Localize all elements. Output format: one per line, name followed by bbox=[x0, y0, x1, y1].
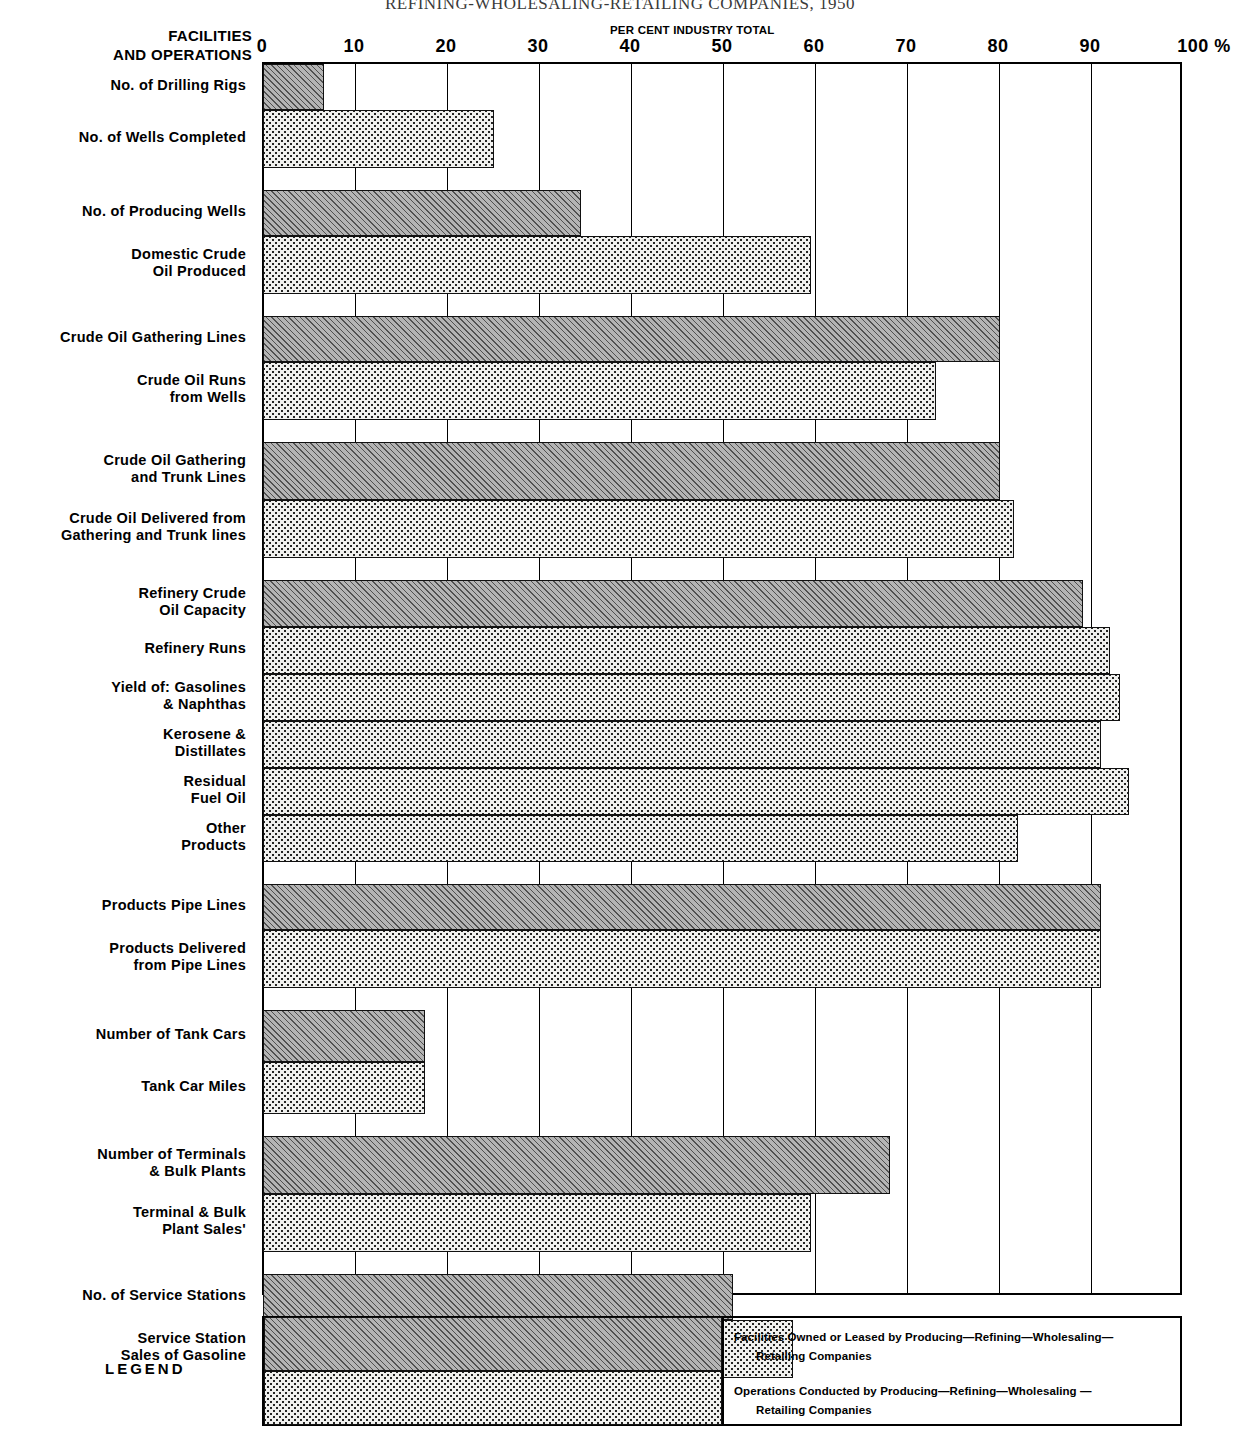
row-label-line: Oil Produced bbox=[0, 263, 246, 280]
row-label-crude-oil-gathering-lines: Crude Oil Gathering Lines bbox=[0, 329, 252, 346]
plot-area bbox=[262, 62, 1182, 1295]
row-label-number-of-tank-cars: Number of Tank Cars bbox=[0, 1026, 252, 1043]
row-label-products-delivered-from-pipe-lines: Products Deliveredfrom Pipe Lines bbox=[0, 940, 252, 974]
row-label-line: Products Pipe Lines bbox=[0, 897, 246, 914]
row-label-line: Refinery Crude bbox=[0, 585, 246, 602]
row-label-line: Other bbox=[0, 820, 246, 837]
row-label-crude-oil-runs-from-wells: Crude Oil Runsfrom Wells bbox=[0, 372, 252, 406]
row-label-line: Domestic Crude bbox=[0, 246, 246, 263]
row-label-terminal-bulk-plant-sales: Terminal & BulkPlant Sales' bbox=[0, 1204, 252, 1238]
legend-title: LEGEND bbox=[105, 1360, 255, 1377]
row-label-no-of-wells-completed: No. of Wells Completed bbox=[0, 129, 252, 146]
legend-box: Facilities Owned or Leased by Producing—… bbox=[262, 1316, 1182, 1426]
bar-no-of-producing-wells bbox=[263, 190, 581, 236]
row-label-line: Crude Oil Delivered from bbox=[0, 510, 246, 527]
row-label-line: Residual bbox=[0, 773, 246, 790]
row-label-residual-fuel-oil: ResidualFuel Oil bbox=[0, 773, 252, 807]
row-label-line: Crude Oil Runs bbox=[0, 372, 246, 389]
bar-kerosene-distillates bbox=[263, 721, 1101, 768]
bar-residual-fuel-oil bbox=[263, 768, 1129, 815]
row-label-line: from Pipe Lines bbox=[0, 957, 246, 974]
axis-caption: PER CENT INDUSTRY TOTAL bbox=[610, 24, 775, 36]
row-label-line: & Bulk Plants bbox=[0, 1163, 246, 1180]
row-label-line: No. of Service Stations bbox=[0, 1287, 246, 1304]
bar-products-pipe-lines bbox=[263, 884, 1101, 930]
legend-text-owned: Facilities Owned or Leased by Producing—… bbox=[734, 1328, 1180, 1366]
x-tick-30: 30 bbox=[527, 36, 548, 57]
bar-refinery-crude-oil-capacity bbox=[263, 580, 1083, 627]
legend-text-operations: Operations Conducted by Producing—Refini… bbox=[734, 1382, 1180, 1420]
bar-crude-oil-gathering-and-trunk-lines bbox=[263, 442, 1000, 500]
x-tick-10: 10 bbox=[343, 36, 364, 57]
bar-crude-oil-delivered-from-gathering-and-trunk-lines bbox=[263, 500, 1014, 558]
bar-no-of-service-stations bbox=[263, 1274, 733, 1320]
row-label-other-products: OtherProducts bbox=[0, 820, 252, 854]
bar-number-of-tank-cars bbox=[263, 1010, 425, 1062]
row-label-refinery-runs: Refinery Runs bbox=[0, 640, 252, 657]
row-label-line: Fuel Oil bbox=[0, 790, 246, 807]
row-label-line: and Trunk Lines bbox=[0, 469, 246, 486]
bar-products-delivered-from-pipe-lines bbox=[263, 930, 1101, 988]
row-label-line: Terminal & Bulk bbox=[0, 1204, 246, 1221]
row-label-line: Products Delivered bbox=[0, 940, 246, 957]
row-label-line: Plant Sales' bbox=[0, 1221, 246, 1238]
legend-ops-line-1: Operations Conducted by Producing—Refini… bbox=[734, 1382, 1180, 1401]
row-label-no-of-service-stations: No. of Service Stations bbox=[0, 1287, 252, 1304]
x-tick-0: 0 bbox=[257, 36, 268, 57]
row-label-tank-car-miles: Tank Car Miles bbox=[0, 1078, 252, 1095]
row-label-line: No. of Wells Completed bbox=[0, 129, 246, 146]
row-label-crude-oil-gathering-and-trunk-lines: Crude Oil Gatheringand Trunk Lines bbox=[0, 452, 252, 486]
row-label-no-of-drilling-rigs: No. of Drilling Rigs bbox=[0, 77, 252, 94]
row-label-kerosene-distillates: Kerosene &Distillates bbox=[0, 726, 252, 760]
x-tick-20: 20 bbox=[435, 36, 456, 57]
x-tick-50: 50 bbox=[711, 36, 732, 57]
x-tick-100: 100 % bbox=[1177, 36, 1231, 57]
row-label-products-pipe-lines: Products Pipe Lines bbox=[0, 897, 252, 914]
x-tick-40: 40 bbox=[619, 36, 640, 57]
row-label-number-of-terminals-bulk-plants: Number of Terminals& Bulk Plants bbox=[0, 1146, 252, 1180]
row-label-refinery-crude-oil-capacity: Refinery CrudeOil Capacity bbox=[0, 585, 252, 619]
row-label-service-station-sales-of-gasoline: Service StationSales of Gasoline bbox=[0, 1330, 252, 1364]
legend-swatch-operations bbox=[264, 1371, 722, 1425]
row-label-line: Number of Tank Cars bbox=[0, 1026, 246, 1043]
bar-tank-car-miles bbox=[263, 1062, 425, 1114]
row-label-line: Number of Terminals bbox=[0, 1146, 246, 1163]
bar-no-of-drilling-rigs bbox=[263, 64, 324, 110]
row-label-line: Yield of: Gasolines bbox=[0, 679, 246, 696]
bar-terminal-bulk-plant-sales bbox=[263, 1194, 811, 1252]
bar-refinery-runs bbox=[263, 627, 1110, 674]
legend-owned-line-2: Retailing Companies bbox=[734, 1347, 1180, 1366]
x-tick-90: 90 bbox=[1079, 36, 1100, 57]
bar-domestic-crude-oil-produced bbox=[263, 236, 811, 294]
row-label-line: No. of Producing Wells bbox=[0, 203, 246, 220]
x-tick-80: 80 bbox=[987, 36, 1008, 57]
row-label-line: Kerosene & bbox=[0, 726, 246, 743]
row-label-line: No. of Drilling Rigs bbox=[0, 77, 246, 94]
row-label-domestic-crude-oil-produced: Domestic CrudeOil Produced bbox=[0, 246, 252, 280]
column-header-line-1: FACILITIES bbox=[0, 26, 252, 45]
row-label-line: Refinery Runs bbox=[0, 640, 246, 657]
row-label-line: Products bbox=[0, 837, 246, 854]
chart-title: REFINING-WHOLESALING-RETAILING COMPANIES… bbox=[0, 0, 1240, 14]
row-label-line: Crude Oil Gathering Lines bbox=[0, 329, 246, 346]
row-label-no-of-producing-wells: No. of Producing Wells bbox=[0, 203, 252, 220]
row-label-line: Distillates bbox=[0, 743, 246, 760]
bar-number-of-terminals-bulk-plants bbox=[263, 1136, 890, 1194]
row-label-line: Crude Oil Gathering bbox=[0, 452, 246, 469]
x-tick-60: 60 bbox=[803, 36, 824, 57]
row-label-line: & Naphthas bbox=[0, 696, 246, 713]
bar-crude-oil-gathering-lines bbox=[263, 316, 1000, 362]
column-header: FACILITIES AND OPERATIONS bbox=[0, 26, 252, 64]
row-label-line: Tank Car Miles bbox=[0, 1078, 246, 1095]
row-label-line: Gathering and Trunk lines bbox=[0, 527, 246, 544]
bar-no-of-wells-completed bbox=[263, 110, 494, 168]
row-label-line: Oil Capacity bbox=[0, 602, 246, 619]
bar-other-products bbox=[263, 815, 1018, 862]
column-header-line-2: AND OPERATIONS bbox=[0, 45, 252, 64]
legend-divider bbox=[722, 1318, 724, 1424]
legend-ops-line-2: Retailing Companies bbox=[734, 1401, 1180, 1420]
bar-yield-of-gasolines-naphthas bbox=[263, 674, 1120, 721]
row-label-line: Service Station bbox=[0, 1330, 246, 1347]
row-label-line: from Wells bbox=[0, 389, 246, 406]
bar-crude-oil-runs-from-wells bbox=[263, 362, 936, 420]
